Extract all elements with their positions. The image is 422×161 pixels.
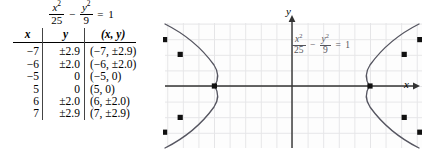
right-hand-side: 1 <box>344 41 351 51</box>
coordinates-table: x y (x, y) −7 ±2.9 (−7, ±2.9) −6 ±2.0 (−… <box>13 28 136 120</box>
equals-sign: = <box>334 41 341 51</box>
graph-equation-annotation: x2 25 − y2 9 = 1 <box>291 35 351 56</box>
fraction-x-over-25: x2 25 <box>49 2 64 26</box>
data-point-neg7-pos2_9 <box>163 37 167 42</box>
data-point-neg6-neg2_0 <box>178 115 183 120</box>
cell-y: ±2.9 <box>43 43 85 58</box>
table-header-row: x y (x, y) <box>13 28 136 43</box>
cell-y: 0 <box>43 70 85 82</box>
fraction-denominator-9: 9 <box>80 15 93 27</box>
right-hand-side: 1 <box>107 9 115 20</box>
cell-xy: (−6, ±2.0) <box>85 58 137 70</box>
cell-x: −5 <box>13 70 43 82</box>
column-header-xy: (x, y) <box>85 28 137 43</box>
table-panel: x2 25 − y2 9 = 1 x y (x, y) <box>0 0 163 161</box>
data-point-pos6-pos2_0 <box>402 52 407 57</box>
fraction-denominator-25: 25 <box>49 15 64 27</box>
hyperbola-plot <box>163 0 422 161</box>
cell-y: ±2.0 <box>43 95 85 107</box>
table-equation: x2 25 − y2 9 = 1 <box>0 2 163 26</box>
data-point-neg5-zero <box>212 83 217 88</box>
fraction-numerator-y: y2 <box>80 2 93 15</box>
cell-x: 6 <box>13 95 43 107</box>
cell-y: ±2.0 <box>43 58 85 70</box>
cell-xy: (−5, 0) <box>85 70 137 82</box>
equation-expression: x2 25 − y2 9 = 1 <box>291 35 351 56</box>
cell-xy: (−7, ±2.9) <box>85 43 137 58</box>
cell-xy: (5, 0) <box>85 83 137 95</box>
minus-operator: − <box>309 41 316 51</box>
cell-x: −7 <box>13 43 43 58</box>
data-point-pos6-neg2_0 <box>402 115 407 120</box>
table-row: −5 0 (−5, 0) <box>13 70 136 82</box>
cell-y: 0 <box>43 83 85 95</box>
minus-operator: − <box>68 9 76 20</box>
data-point-pos7-pos2_9 <box>417 37 422 42</box>
table-row: −6 ±2.0 (−6, ±2.0) <box>13 58 136 70</box>
table-row: 5 0 (5, 0) <box>13 83 136 95</box>
cell-x: 5 <box>13 83 43 95</box>
exponent-two: 2 <box>299 32 302 39</box>
table-row: −7 ±2.9 (−7, ±2.9) <box>13 43 136 58</box>
table-body: −7 ±2.9 (−7, ±2.9) −6 ±2.0 (−6, ±2.0) −5… <box>13 43 136 120</box>
equals-sign: = <box>96 9 104 20</box>
fraction-denominator-9: 9 <box>320 46 331 56</box>
table-header: x y (x, y) <box>13 28 136 43</box>
data-point-pos7-neg2_9 <box>417 130 422 135</box>
x-axis-label: x <box>404 78 409 90</box>
equation-expression: x2 25 − y2 9 = 1 <box>48 2 115 26</box>
data-point-pos5-zero <box>367 83 372 88</box>
data-point-neg6-pos2_0 <box>178 52 183 57</box>
cell-x: 7 <box>13 107 43 119</box>
exponent-two: 2 <box>57 0 61 8</box>
fraction-denominator-25: 25 <box>292 46 306 56</box>
table-row: 7 ±2.9 (7, ±2.9) <box>13 107 136 119</box>
table-row: 6 ±2.0 (6, ±2.0) <box>13 95 136 107</box>
fraction-y-over-9: y2 9 <box>320 35 331 56</box>
cell-xy: (6, ±2.0) <box>85 95 137 107</box>
cell-x: −6 <box>13 58 43 70</box>
data-point-neg7-neg2_9 <box>163 130 167 135</box>
exponent-two: 2 <box>87 0 91 8</box>
fraction-x-over-25: x2 25 <box>292 35 306 56</box>
fraction-y-over-9: y2 9 <box>80 2 93 26</box>
column-header-y: y <box>43 28 85 43</box>
column-header-x: x <box>13 28 43 43</box>
figure-root: x2 25 − y2 9 = 1 x y (x, y) <box>0 0 422 161</box>
y-axis-label: y <box>286 5 291 17</box>
graph-panel: x2 25 − y2 9 = 1 y x <box>163 0 422 161</box>
fraction-numerator-x: x2 <box>49 2 64 15</box>
cell-y: ±2.9 <box>43 107 85 119</box>
exponent-two: 2 <box>326 32 329 39</box>
x-axis-arrow <box>413 83 420 90</box>
cell-xy: (7, ±2.9) <box>85 107 137 119</box>
